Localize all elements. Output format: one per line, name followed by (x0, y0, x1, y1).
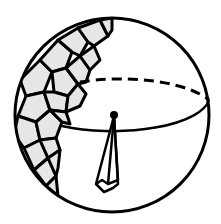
equator-back-dashed (80, 79, 209, 100)
sphere-diagram (0, 0, 221, 224)
cone (96, 116, 118, 192)
tessellation-cells (14, 18, 112, 196)
center-point (110, 111, 118, 119)
equator-front (62, 100, 209, 131)
